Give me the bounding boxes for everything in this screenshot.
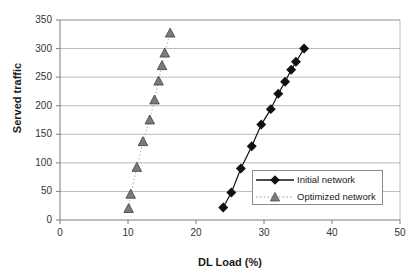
legend-label-optimized-network: Optimized network [297, 191, 376, 202]
chart-legend: Initial network Optimized network [252, 170, 383, 205]
data-point-triangle-2 [132, 162, 142, 171]
data-point-diamond-2 [237, 164, 245, 172]
data-point-triangle-7 [157, 61, 167, 70]
data-point-diamond-4 [257, 120, 265, 128]
data-point-diamond-9 [292, 58, 300, 66]
data-point-triangle-9 [165, 28, 175, 37]
series-optimized-network [124, 28, 175, 212]
data-point-triangle-1 [126, 189, 136, 198]
data-point-triangle-3 [138, 137, 148, 146]
legend-item-optimized-network: Optimized network [253, 188, 384, 205]
chart-container: Served traffic DL Load (%) 0501001502002… [0, 0, 418, 278]
data-point-diamond-7 [281, 78, 289, 86]
data-point-triangle-4 [145, 115, 155, 124]
data-point-diamond-5 [267, 105, 275, 113]
data-point-diamond-10 [300, 44, 308, 52]
data-point-diamond-8 [287, 66, 295, 74]
data-point-diamond-3 [248, 142, 256, 150]
legend-item-initial-network: Initial network [253, 171, 384, 188]
data-point-diamond-1 [227, 188, 235, 196]
data-point-triangle-5 [150, 95, 160, 104]
plot-area [0, 0, 418, 278]
legend-label-initial-network: Initial network [297, 174, 355, 185]
legend-key-diamond-icon [253, 172, 297, 188]
data-point-triangle-8 [160, 48, 170, 57]
legend-key-triangle-icon [253, 189, 297, 205]
data-point-triangle-0 [124, 204, 133, 213]
data-point-diamond-0 [219, 203, 227, 211]
data-point-diamond-6 [274, 90, 282, 98]
